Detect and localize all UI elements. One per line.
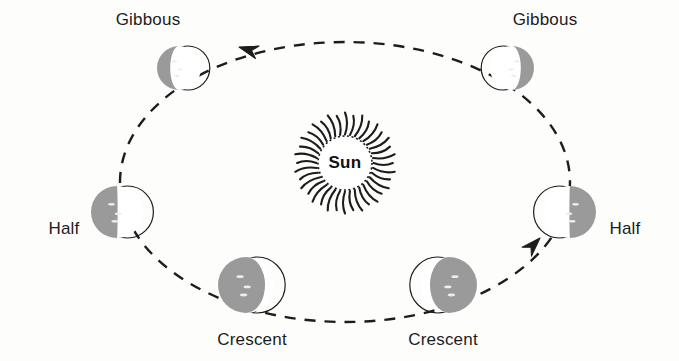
sun-ray: [373, 154, 395, 158]
sun-ray: [336, 191, 340, 210]
orbit-arrow-lower-right: [522, 233, 545, 256]
moon-shadow-region: [569, 186, 596, 238]
sun-ray: [295, 154, 317, 158]
sun-ray: [297, 161, 316, 163]
sun-label: Sun: [328, 153, 361, 172]
sun-ray: [359, 188, 369, 205]
sun-ray: [350, 116, 354, 135]
phase-label-gibbous-right: Gibbous: [513, 10, 578, 29]
moon-gibbous-right: [481, 46, 534, 90]
arrowhead-shape: [237, 41, 259, 59]
moon-crater: [566, 212, 573, 215]
phase-label-half-right: Half: [609, 219, 640, 238]
sun-ray: [328, 190, 336, 211]
sun-ray: [372, 173, 390, 180]
phase-label-crescent-right: Crescent: [408, 330, 478, 349]
diagram-canvas: Sun GibbousGibbousHalfHalfCrescentCresce…: [0, 0, 679, 361]
sun-group: Sun: [295, 113, 394, 214]
moon-crater: [108, 203, 115, 206]
sun-ray: [300, 147, 318, 154]
moon-crater: [115, 212, 122, 215]
moon-crater: [244, 286, 251, 289]
sun-ray: [301, 177, 320, 188]
sun-ray: [355, 116, 363, 137]
moon-phases-diagram: Sun GibbousGibbousHalfHalfCrescentCresce…: [0, 0, 679, 361]
moon-half-right: [534, 186, 596, 238]
moon-crater: [177, 68, 183, 70]
moon-crater: [508, 68, 514, 70]
moon-crater: [514, 60, 520, 62]
moon-crater: [111, 220, 118, 223]
sun-ray: [374, 163, 393, 165]
sun-ray: [321, 122, 331, 139]
moon-crater: [174, 75, 180, 77]
phase-label-half-left: Half: [48, 219, 79, 238]
moon-half-left: [91, 186, 153, 238]
arrowhead-shape: [522, 233, 545, 256]
sun-ray: [337, 116, 341, 135]
sun-ray: [373, 168, 395, 172]
moon-crescent-right: [410, 257, 477, 313]
moon-crater: [572, 203, 579, 206]
phase-label-gibbous-left: Gibbous: [116, 10, 181, 29]
moon-shadow-region: [430, 257, 477, 313]
sun-ray: [295, 167, 317, 171]
moon-crescent-left: [218, 257, 285, 313]
moon-crater: [236, 275, 243, 278]
moon-crater: [448, 294, 455, 297]
sun-ray: [370, 138, 389, 149]
sun-ray: [367, 181, 382, 193]
sun-ray: [367, 132, 382, 144]
moon-crater: [451, 275, 458, 278]
phase-label-crescent-left: Crescent: [217, 330, 287, 349]
sun-ray: [345, 113, 347, 135]
moon-crater: [444, 286, 451, 289]
orbit-arrow-top: [237, 41, 259, 59]
moon-crater: [511, 75, 517, 77]
moon-gibbous-left: [157, 46, 210, 90]
moon-crater: [569, 220, 576, 223]
moon-crater: [171, 60, 177, 62]
sun-ray: [308, 181, 323, 193]
moon-shadow-region: [218, 257, 265, 313]
moon-crater: [240, 294, 247, 297]
sun-ray: [343, 192, 345, 214]
moon-shadow-region: [91, 186, 118, 238]
sun-ray: [349, 191, 353, 210]
sun-ray: [308, 132, 323, 144]
